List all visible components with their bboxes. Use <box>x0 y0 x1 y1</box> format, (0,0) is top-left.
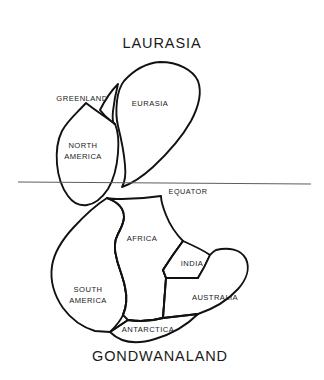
svg-text:AMERICA: AMERICA <box>69 296 107 305</box>
svg-text:NORTH: NORTH <box>68 141 97 150</box>
gondwanaland-title: GONDWANALAND <box>92 348 228 364</box>
region-label-antarctica: ANTARCTICA <box>122 325 175 334</box>
laurasia-title: LAURASIA <box>123 35 202 51</box>
region-label-india: INDIA <box>181 259 204 268</box>
region-label-greenland: GREENLAND <box>56 94 107 103</box>
svg-text:SOUTH: SOUTH <box>74 285 103 294</box>
region-label-australia: AUSTRALIA <box>192 293 239 302</box>
region-shape-south-america[interactable] <box>51 198 126 332</box>
continental-drift-map: LAURASIA EQUATOR GREENLAND EURASIA NORTH… <box>0 0 324 380</box>
region-label-eurasia: EURASIA <box>132 99 169 108</box>
region-label-africa: AFRICA <box>127 234 158 243</box>
svg-text:AMERICA: AMERICA <box>64 152 102 161</box>
region-shape-eurasia[interactable] <box>116 62 199 187</box>
equator-label: EQUATOR <box>169 187 208 196</box>
